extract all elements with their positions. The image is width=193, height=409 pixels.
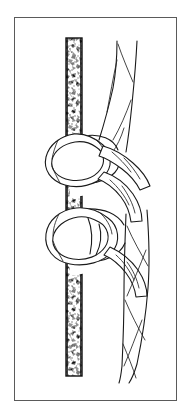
knot-illustration bbox=[0, 0, 193, 409]
figure-page: Knot tied around a post rope knot around… bbox=[0, 0, 193, 409]
rope-standing-part-upper bbox=[99, 41, 137, 153]
post bbox=[66, 38, 82, 376]
rope-working-end-lower bbox=[104, 247, 147, 297]
